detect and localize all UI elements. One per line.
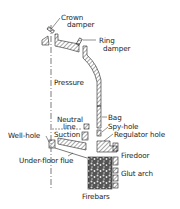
- label-regulator-hole: Regulator hole: [114, 131, 165, 138]
- label-ring-damper: damper: [103, 45, 130, 52]
- kiln-diagram: [0, 0, 180, 209]
- label-bag: Bag: [108, 114, 122, 121]
- label-well-hole: Well-hole: [8, 132, 40, 139]
- label-firebars: Firebars: [82, 193, 110, 200]
- label-line: line: [63, 123, 76, 130]
- label-firedoor: Firedoor: [121, 152, 149, 159]
- label-crown-damper: damper: [67, 21, 94, 28]
- crown-damper: [47, 27, 54, 33]
- label-glut-arch: Glut arch: [121, 170, 153, 177]
- outer-wall: [83, 46, 101, 106]
- ring-damper: [76, 38, 82, 46]
- firebars: [88, 157, 112, 189]
- crown-arch: [55, 34, 79, 52]
- label-ring: Ring: [99, 37, 115, 44]
- label-spy-hole: Spy-hole: [108, 123, 138, 130]
- label-under-floor-flue: Under-floor flue: [19, 157, 73, 164]
- label-suction: Suction: [54, 131, 80, 138]
- well-hole: [49, 140, 55, 148]
- label-pressure: Pressure: [54, 79, 84, 86]
